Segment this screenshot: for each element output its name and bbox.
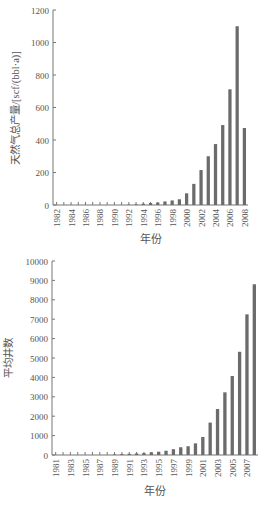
bar-2001 xyxy=(192,184,195,205)
y-tick-label: 3000 xyxy=(30,392,49,402)
x-tick-label: 1988 xyxy=(95,209,105,228)
y-tick-label: 1000 xyxy=(31,38,50,48)
x-tick-label: 1992 xyxy=(124,209,134,227)
x-tick-label: 1985 xyxy=(81,459,91,478)
x-tick-label: 1994 xyxy=(139,209,149,228)
x-tick-label: 1982 xyxy=(52,209,62,227)
x-axis-label: 年份 xyxy=(140,232,162,245)
y-tick-label: 200 xyxy=(36,168,50,178)
average-well-count-chart: 0100020003000400050006000700080009000100… xyxy=(0,250,265,505)
bar-1990 xyxy=(120,454,123,455)
y-tick-label: 800 xyxy=(36,71,50,81)
bar-1992 xyxy=(135,453,138,455)
bar-1989 xyxy=(113,454,116,455)
gas-production-bar-chart: 0200400600800100012001982198419861988199… xyxy=(0,0,265,250)
y-axis-label: 天然气总产量/[scf/(bbl·a)] xyxy=(9,51,22,165)
bar-2004 xyxy=(223,392,226,455)
x-tick-label: 1983 xyxy=(66,459,76,478)
bar-2003 xyxy=(207,156,210,205)
y-tick-label: 1000 xyxy=(30,431,49,441)
x-tick-label: 2008 xyxy=(240,209,250,228)
x-tick-label: 2005 xyxy=(228,459,238,478)
bar-1995 xyxy=(149,203,152,205)
bar-1995 xyxy=(157,452,160,455)
bar-2008 xyxy=(253,284,256,455)
x-tick-label: 1998 xyxy=(168,209,178,228)
x-tick-label: 1996 xyxy=(153,209,163,228)
bar-2003 xyxy=(216,409,219,455)
bar-2006 xyxy=(228,89,231,205)
x-tick-label: 1991 xyxy=(125,459,135,477)
y-tick-label: 6000 xyxy=(30,334,49,344)
x-tick-label: 2006 xyxy=(225,209,235,228)
y-tick-label: 600 xyxy=(36,103,50,113)
bar-2004 xyxy=(214,144,217,205)
x-tick-label: 1993 xyxy=(139,459,149,478)
well-count-bar-chart: 0100020003000400050006000700080009000100… xyxy=(0,250,265,505)
bar-1999 xyxy=(186,446,189,455)
x-tick-label: 2000 xyxy=(182,209,192,228)
bar-2002 xyxy=(209,423,212,455)
bar-1997 xyxy=(163,201,166,205)
x-tick-label: 1990 xyxy=(110,209,120,228)
x-tick-label: 1997 xyxy=(169,459,179,478)
bar-1993 xyxy=(134,204,137,205)
bar-1994 xyxy=(142,204,145,205)
bar-1996 xyxy=(164,451,167,455)
x-tick-label: 2004 xyxy=(211,209,221,228)
x-tick-label: 1995 xyxy=(154,459,164,478)
bar-2007 xyxy=(245,314,248,455)
bar-1997 xyxy=(172,449,175,455)
x-axis-label: 年份 xyxy=(144,484,166,497)
x-tick-label: 1984 xyxy=(67,209,77,228)
bar-2000 xyxy=(194,443,197,455)
gas-production-chart: 0200400600800100012001982198419861988199… xyxy=(0,0,265,250)
x-tick-label: 1989 xyxy=(110,459,120,478)
y-tick-label: 5000 xyxy=(30,354,49,364)
y-tick-label: 1200 xyxy=(31,6,50,16)
y-axis-label: 平均井数 xyxy=(2,337,14,378)
x-tick-label: 1981 xyxy=(51,459,61,477)
bar-2002 xyxy=(199,170,202,205)
bar-1999 xyxy=(178,199,181,205)
bar-2007 xyxy=(236,26,239,205)
bar-1998 xyxy=(179,447,182,455)
x-tick-label: 2001 xyxy=(198,459,208,477)
x-tick-label: 2003 xyxy=(213,459,223,478)
bar-1993 xyxy=(142,453,145,455)
bar-2006 xyxy=(238,352,241,455)
x-tick-label: 2002 xyxy=(197,209,207,227)
bar-2005 xyxy=(231,376,234,455)
y-tick-label: 10000 xyxy=(26,257,49,267)
y-tick-label: 7000 xyxy=(30,315,49,325)
x-tick-label: 2007 xyxy=(242,459,252,478)
bar-2005 xyxy=(221,125,224,205)
bar-1991 xyxy=(128,454,131,455)
y-tick-label: 8000 xyxy=(30,295,49,305)
bar-1996 xyxy=(156,203,159,205)
y-tick-label: 2000 xyxy=(30,412,49,422)
y-tick-label: 400 xyxy=(36,136,50,146)
bar-2008 xyxy=(243,128,246,205)
y-tick-label: 4000 xyxy=(30,373,49,383)
y-tick-label: 0 xyxy=(45,201,50,211)
bar-2000 xyxy=(185,193,188,205)
bar-1994 xyxy=(150,452,153,455)
bar-2001 xyxy=(201,437,204,455)
bar-1998 xyxy=(171,200,174,205)
y-tick-label: 9000 xyxy=(30,276,49,286)
x-tick-label: 1987 xyxy=(95,459,105,478)
y-tick-label: 0 xyxy=(44,451,49,461)
x-tick-label: 1999 xyxy=(184,459,194,478)
x-tick-label: 1986 xyxy=(81,209,91,228)
